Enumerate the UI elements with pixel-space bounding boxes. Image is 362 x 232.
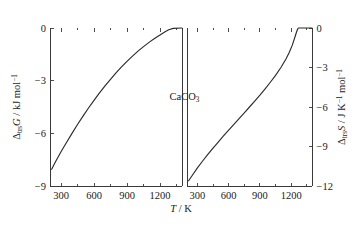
x-tick-label: 1200	[281, 190, 302, 201]
y-tick-label: 0	[317, 23, 322, 34]
right-panel: 30060090012000−3−6−9−12	[187, 23, 333, 201]
y-tick-label: −6	[317, 102, 328, 113]
compound-annotation: CaCO3	[170, 91, 200, 104]
y-tick-label: −3	[35, 75, 46, 86]
compound-annotation-base: CaCO	[170, 91, 197, 102]
figure-container: 30060090012000−3−6−930060090012000−3−6−9…	[0, 0, 362, 232]
data-curve-right	[189, 28, 312, 181]
unit-exponent: −1	[11, 74, 19, 82]
y-tick-label: 0	[41, 23, 46, 34]
unit-text: / kJ mol	[11, 82, 22, 119]
chart-canvas: 30060090012000−3−6−930060090012000−3−6−9…	[0, 0, 362, 232]
x-tick-label: 600	[86, 190, 102, 201]
y-tick-label: −6	[35, 128, 46, 139]
y-tick-label: −12	[317, 181, 333, 192]
left-panel: 30060090012000−3−6−9	[35, 23, 182, 201]
data-curve-left	[52, 28, 182, 169]
unit-text: / J K	[336, 103, 347, 126]
x-tick-label: 900	[119, 190, 135, 201]
y-tick-label: −9	[317, 141, 328, 152]
x-axis-title-unit: / K	[176, 203, 192, 214]
x-axis-title: T / K	[170, 203, 192, 214]
unit-exponent-2: −1	[336, 69, 344, 77]
x-tick-label: 300	[190, 190, 206, 201]
x-tick-label: 300	[53, 190, 69, 201]
y-tick-label: −3	[317, 62, 328, 73]
x-tick-label: 1200	[150, 190, 171, 201]
compound-annotation-subscript: 3	[196, 96, 200, 104]
y-tick-label: −9	[35, 181, 46, 192]
x-tick-label: 900	[252, 190, 268, 201]
right-y-axis-title: ΔtrsS / J K−1 mol−1	[336, 69, 350, 145]
left-y-axis-title: ΔtrsG / kJ mol−1	[11, 74, 25, 140]
unit-text-mid: mol	[336, 77, 347, 96]
plot-root: 30060090012000−3−6−930060090012000−3−6−9…	[11, 23, 350, 214]
x-tick-label: 600	[221, 190, 237, 201]
